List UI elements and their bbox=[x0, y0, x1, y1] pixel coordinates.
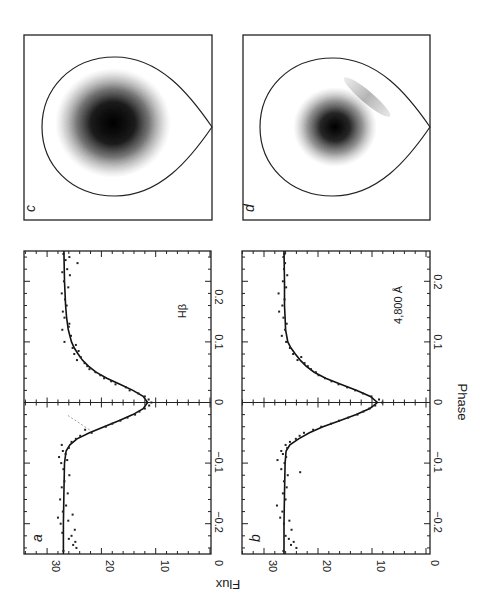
data-point bbox=[282, 453, 284, 455]
data-point bbox=[60, 462, 62, 464]
data-point bbox=[94, 371, 96, 373]
data-point bbox=[67, 520, 69, 522]
data-point bbox=[320, 426, 322, 428]
data-point bbox=[286, 323, 288, 325]
data-point bbox=[68, 323, 70, 325]
data-point bbox=[99, 374, 101, 376]
data-point bbox=[75, 547, 77, 549]
data-point bbox=[115, 383, 117, 385]
panel-b-annotation: 4,800 Å bbox=[392, 285, 404, 324]
data-point bbox=[300, 356, 302, 358]
data-point bbox=[299, 435, 301, 437]
data-point bbox=[278, 292, 280, 294]
data-point bbox=[69, 274, 71, 276]
data-point bbox=[68, 256, 70, 258]
phase-tick-label: −0.2 bbox=[432, 511, 444, 533]
data-point bbox=[362, 392, 364, 394]
data-point bbox=[303, 432, 305, 434]
flux-tick-label: 10 bbox=[375, 560, 387, 572]
data-point bbox=[374, 405, 376, 407]
data-point bbox=[282, 492, 284, 494]
data-point bbox=[65, 505, 67, 507]
data-point bbox=[292, 353, 294, 355]
data-point bbox=[78, 350, 80, 352]
data-point bbox=[58, 456, 60, 458]
data-point bbox=[356, 414, 358, 416]
data-point bbox=[138, 411, 140, 413]
data-point bbox=[354, 389, 356, 391]
panel-a-annotation: Hβ bbox=[176, 304, 188, 318]
data-point bbox=[288, 520, 290, 522]
flux-tick-label: 20 bbox=[321, 560, 333, 572]
data-point bbox=[338, 383, 340, 385]
data-point bbox=[62, 511, 64, 513]
data-point bbox=[285, 498, 287, 500]
data-point bbox=[84, 429, 86, 431]
data-point bbox=[80, 356, 82, 358]
panel-a-label: a bbox=[29, 534, 45, 542]
data-point bbox=[331, 380, 333, 382]
flux-tick-label: 10 bbox=[159, 560, 171, 572]
phase-tick-label: 0 bbox=[432, 399, 444, 405]
phase-tick-label: −0.1 bbox=[432, 451, 444, 473]
data-point bbox=[86, 365, 88, 367]
data-point bbox=[289, 441, 291, 443]
data-point bbox=[312, 429, 314, 431]
data-point bbox=[72, 514, 74, 516]
data-point bbox=[276, 505, 278, 507]
data-point bbox=[62, 311, 64, 313]
data-point bbox=[291, 529, 293, 531]
panel-a-ticks bbox=[24, 251, 211, 554]
data-point bbox=[62, 468, 64, 470]
data-point bbox=[310, 368, 312, 370]
phase-tick-label: 0.2 bbox=[213, 289, 225, 304]
data-point bbox=[315, 371, 317, 373]
data-point bbox=[283, 523, 285, 525]
flux-tick-label: 20 bbox=[104, 560, 116, 572]
data-point bbox=[74, 529, 76, 531]
phase-tick-label: −0.2 bbox=[213, 511, 225, 533]
panel-b-phase-tick-labels: 0.2 0.1 0 −0.1 −0.2 bbox=[432, 274, 444, 533]
data-point bbox=[70, 335, 72, 337]
data-point bbox=[285, 535, 287, 537]
data-point bbox=[62, 253, 64, 255]
data-point bbox=[378, 398, 380, 400]
data-point bbox=[285, 456, 287, 458]
data-point bbox=[144, 408, 146, 410]
panel-d: d bbox=[241, 35, 430, 220]
data-point bbox=[62, 550, 64, 552]
data-point bbox=[62, 450, 64, 452]
data-point bbox=[280, 450, 282, 452]
panel-b-flux-tick-labels: 30 20 10 0 bbox=[267, 560, 441, 572]
data-point bbox=[282, 317, 284, 319]
data-point bbox=[281, 335, 283, 337]
panel-d-label: d bbox=[241, 203, 257, 212]
data-point bbox=[59, 498, 61, 500]
data-point bbox=[277, 459, 279, 461]
data-point bbox=[338, 420, 340, 422]
flux-tick-label: 0 bbox=[429, 560, 441, 566]
x-axis-title: Phase bbox=[455, 384, 470, 421]
data-point bbox=[65, 453, 67, 455]
data-point bbox=[137, 392, 139, 394]
flux-tick-label: 0 bbox=[213, 560, 225, 566]
data-point bbox=[281, 305, 283, 307]
data-point bbox=[61, 292, 63, 294]
data-point bbox=[64, 298, 66, 300]
data-point bbox=[68, 474, 70, 476]
data-point bbox=[66, 305, 68, 307]
data-point bbox=[71, 441, 73, 443]
data-point bbox=[285, 341, 287, 343]
flux-tick-label: 30 bbox=[50, 560, 62, 572]
data-point bbox=[144, 395, 146, 397]
data-point bbox=[148, 405, 150, 407]
panel-a-flux-tick-labels: 30 20 10 0 bbox=[50, 560, 225, 572]
data-point bbox=[57, 517, 59, 519]
data-point bbox=[72, 544, 74, 546]
data-point bbox=[61, 271, 63, 273]
data-point bbox=[370, 395, 372, 397]
panel-a-phase-tick-labels: 0.2 0.1 0 −0.1 −0.2 bbox=[213, 289, 225, 533]
data-point bbox=[88, 368, 90, 370]
data-point bbox=[71, 535, 73, 537]
panel-c: c bbox=[22, 35, 212, 220]
